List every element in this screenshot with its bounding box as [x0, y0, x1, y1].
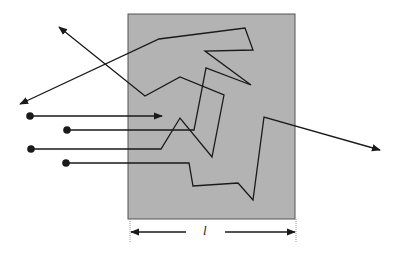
photon-source-dot-icon [26, 112, 34, 120]
photon-source-dot-icon [27, 145, 35, 153]
photon-source-dot-icon [63, 126, 71, 134]
thickness-label: l [203, 223, 207, 239]
scattering-diagram [0, 0, 402, 259]
photon-source-dot-icon [62, 159, 70, 167]
thickness-dimension [130, 219, 296, 242]
